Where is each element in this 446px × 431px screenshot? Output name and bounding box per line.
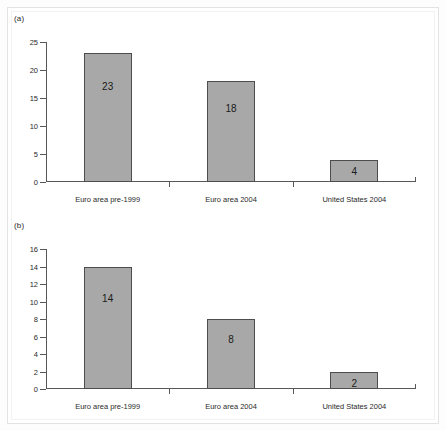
bar (84, 53, 132, 182)
y-axis-tick (40, 154, 46, 155)
y-axis-tick-label: 12 (30, 280, 38, 289)
y-axis-tick-label: 10 (30, 297, 38, 306)
x-axis-category-label: Euro area 2004 (205, 195, 257, 204)
x-axis-category-label: United States 2004 (322, 195, 386, 204)
bar (207, 319, 255, 389)
bar-value-label: 18 (207, 103, 255, 114)
bar-value-label: 14 (84, 293, 132, 304)
x-axis-category-label: Euro area pre-1999 (75, 195, 140, 204)
y-axis-tick (40, 182, 46, 183)
y-axis-tick (40, 42, 46, 43)
bar (207, 81, 255, 182)
y-axis-tick-label: 2 (34, 367, 38, 376)
y-axis-line-a (46, 42, 47, 182)
y-axis-tick-label: 5 (34, 150, 38, 159)
plot-area-a: 051015202523184 (46, 42, 416, 182)
y-axis-tick-label: 16 (30, 245, 38, 254)
y-axis-tick-label: 15 (30, 94, 38, 103)
plot-area-b: 02468101214161482 (46, 249, 416, 389)
y-axis-tick (40, 267, 46, 268)
panel-label-a: (a) (14, 14, 24, 23)
bar-value-label: 2 (330, 378, 378, 389)
y-axis-tick (40, 354, 46, 355)
y-axis-tick (40, 284, 46, 285)
x-axis-tick (293, 182, 294, 187)
y-axis-tick-label: 6 (34, 332, 38, 341)
x-axis-category-label: United States 2004 (322, 402, 386, 411)
y-axis-line-b (46, 249, 47, 389)
y-axis-tick (40, 319, 46, 320)
y-axis-tick-label: 0 (34, 385, 38, 394)
chart-panel-b: (b) 02468101214161482 Euro area pre-1999… (0, 215, 432, 415)
x-axis-tick (293, 389, 294, 394)
y-axis-tick (40, 372, 46, 373)
x-axis-end-tick-a (415, 177, 416, 182)
x-axis-category-label: Euro area 2004 (205, 402, 257, 411)
y-axis-tick (40, 337, 46, 338)
bar-value-label: 23 (84, 81, 132, 92)
y-axis-tick-label: 14 (30, 262, 38, 271)
y-axis-tick-label: 25 (30, 38, 38, 47)
x-axis-tick (169, 182, 170, 187)
y-axis-tick-label: 20 (30, 66, 38, 75)
y-axis-tick (40, 98, 46, 99)
y-axis-tick (40, 389, 46, 390)
y-axis-tick-label: 8 (34, 315, 38, 324)
x-axis-category-label: Euro area pre-1999 (75, 402, 140, 411)
panel-label-b: (b) (14, 221, 24, 230)
bar (84, 267, 132, 390)
y-axis-tick-label: 0 (34, 178, 38, 187)
y-axis-tick (40, 249, 46, 250)
x-axis-end-tick-b (415, 384, 416, 389)
bar-value-label: 8 (207, 334, 255, 345)
bar-value-label: 4 (330, 166, 378, 177)
y-axis-tick (40, 302, 46, 303)
y-axis-tick-label: 10 (30, 122, 38, 131)
figure-page: (a) 051015202523184 Euro area pre-1999Eu… (0, 0, 446, 431)
y-axis-tick-label: 4 (34, 350, 38, 359)
y-axis-tick (40, 70, 46, 71)
x-axis-tick (169, 389, 170, 394)
y-axis-tick (40, 126, 46, 127)
chart-panel-a: (a) 051015202523184 Euro area pre-1999Eu… (0, 8, 432, 210)
